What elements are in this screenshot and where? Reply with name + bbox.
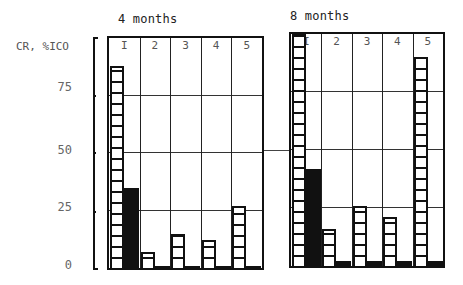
bar-hatched-4 — [383, 217, 397, 266]
bar-solid-4 — [216, 266, 231, 268]
bar-solid-3 — [367, 261, 382, 266]
bar-solid-4 — [397, 261, 412, 266]
column-label-2: 2 — [140, 39, 170, 52]
column-label-2: 2 — [322, 35, 352, 48]
y-axis-tick-25 — [93, 211, 96, 213]
bar-hatched-5 — [414, 57, 428, 266]
gridline-50-connector — [263, 150, 291, 151]
y-axis-title: CR, %ICO — [16, 40, 69, 53]
column-label-4: 4 — [201, 39, 231, 52]
y-axis-tick-75 — [93, 95, 96, 97]
column-label-I: I — [109, 39, 139, 52]
bar-hatched-I — [292, 34, 306, 266]
bar-solid-3 — [185, 266, 200, 268]
bar-hatched-2 — [141, 252, 155, 268]
y-axis-cap-bottom — [93, 268, 98, 270]
y-tick-25: 25 — [42, 200, 72, 214]
y-axis-tick-50 — [93, 152, 96, 154]
bar-hatched-3 — [353, 206, 367, 266]
y-axis-cap-top — [93, 37, 98, 39]
column-divider — [140, 38, 141, 268]
bar-hatched-2 — [322, 229, 336, 266]
bar-solid-5 — [428, 261, 443, 266]
bar-solid-I — [306, 169, 321, 266]
column-divider — [201, 38, 202, 268]
y-tick-75: 75 — [42, 80, 72, 94]
bar-hatched-3 — [171, 234, 185, 269]
bar-solid-5 — [246, 266, 261, 268]
column-label-3: 3 — [352, 35, 382, 48]
y-tick-100: ICO — [49, 40, 69, 53]
bar-solid-2 — [155, 266, 170, 268]
bar-solid-2 — [336, 261, 351, 266]
gridline-50 — [109, 152, 262, 153]
column-label-5: 5 — [413, 35, 443, 48]
bar-hatched-4 — [202, 240, 216, 268]
column-label-5: 5 — [232, 39, 262, 52]
y-tick-50: 50 — [42, 143, 72, 157]
y-axis-title-text: CR, % — [16, 40, 49, 53]
bar-hatched-5 — [232, 206, 246, 268]
y-tick-0: 0 — [42, 258, 72, 272]
gridline-75 — [109, 95, 262, 96]
bar-hatched-I — [110, 66, 124, 268]
bar-solid-I — [124, 188, 139, 269]
panel-title-8-months: 8 months — [290, 9, 349, 23]
column-label-4: 4 — [382, 35, 412, 48]
chart-panel-4-months: I2345 — [107, 36, 264, 270]
column-label-3: 3 — [171, 39, 201, 52]
panel-title-4-months: 4 months — [118, 12, 177, 26]
chart-panel-8-months: I2345 — [289, 32, 445, 268]
